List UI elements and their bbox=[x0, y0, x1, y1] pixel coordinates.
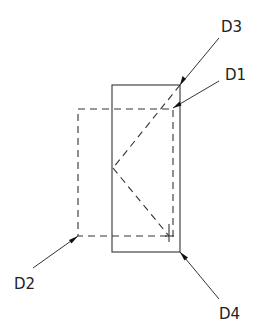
leader-d4 bbox=[180, 252, 219, 299]
label-d4: D4 bbox=[219, 305, 240, 323]
arrowhead-icon bbox=[180, 76, 186, 85]
arrowhead-icon bbox=[180, 252, 188, 261]
dashed-diagonal-lower bbox=[113, 168, 169, 236]
leader-d3 bbox=[180, 38, 219, 85]
diagram-canvas: D3 D1 D2 D4 bbox=[0, 0, 260, 334]
label-d3: D3 bbox=[221, 18, 242, 36]
dashed-diagonal-upper bbox=[113, 85, 180, 168]
label-d1: D1 bbox=[225, 66, 246, 84]
arrowhead-icon bbox=[69, 236, 78, 244]
solid-rectangle bbox=[112, 85, 180, 252]
label-d2: D2 bbox=[14, 275, 35, 293]
dashed-rectangle bbox=[78, 109, 173, 236]
leader-d2 bbox=[33, 236, 78, 268]
